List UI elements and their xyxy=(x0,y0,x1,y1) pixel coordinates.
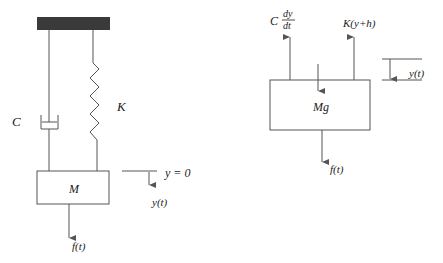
ceiling-support xyxy=(37,17,110,30)
damper-force-denominator: dt xyxy=(283,20,291,31)
mass-spring-damper-diagram: M C K y = 0 y(t) f(t) Mg C dy dt K(y+h) … xyxy=(0,0,443,263)
reference-label: y = 0 xyxy=(164,166,190,180)
displacement-label: y(t) xyxy=(151,196,168,209)
spring-force-label: K(y+h) xyxy=(342,17,376,30)
force-label: f(t) xyxy=(72,240,86,253)
weight-label: Mg xyxy=(312,100,329,114)
displacement-label-fbd: y(t) xyxy=(408,67,425,80)
spring-label: K xyxy=(116,99,127,114)
mass-label: M xyxy=(68,182,80,196)
damper-force-numerator: dy xyxy=(283,8,293,19)
left-system: M C K y = 0 y(t) f(t) xyxy=(12,17,190,253)
free-body-diagram: Mg C dy dt K(y+h) f(t) y(t) xyxy=(270,8,425,176)
spring-icon xyxy=(90,30,99,171)
damper-force-prefix: C xyxy=(270,14,279,28)
applied-force-label: f(t) xyxy=(330,163,344,176)
damper-label: C xyxy=(12,114,21,129)
